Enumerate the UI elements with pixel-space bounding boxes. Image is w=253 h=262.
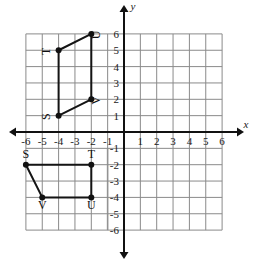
- y-tick-label: -2: [110, 159, 119, 171]
- y-axis-label: y: [130, 0, 136, 12]
- x-tick-label: 5: [203, 135, 209, 147]
- x-tick-label: -2: [87, 135, 96, 147]
- coordinate-plane-svg: -6-5-4-3-2-1123456654321-1-2-3-4-5-6 xy …: [0, 0, 253, 262]
- vertex-point: [23, 162, 29, 168]
- x-tick-label: -5: [38, 135, 48, 147]
- y-tick-label: 4: [114, 61, 120, 73]
- y-tick-label: -5: [110, 208, 120, 220]
- y-tick-label: 6: [114, 28, 120, 40]
- vertex-label: U: [87, 198, 96, 212]
- x-tick-label: 4: [187, 135, 193, 147]
- x-tick-label: 1: [138, 135, 144, 147]
- y-tick-label: -1: [110, 142, 119, 154]
- y-tick-label: 3: [114, 77, 120, 89]
- x-tick-label: 3: [170, 135, 176, 147]
- vertex-label: U: [89, 30, 103, 39]
- y-tick-label: -3: [110, 175, 120, 187]
- axes: [9, 5, 244, 259]
- vertex-label: T: [88, 147, 96, 161]
- y-tick-label: -4: [110, 191, 120, 203]
- y-tick-label: 1: [114, 110, 120, 122]
- vertex-label: S: [23, 147, 30, 161]
- x-tick-label: -6: [21, 135, 31, 147]
- y-tick-label: 2: [114, 93, 120, 105]
- coordinate-plane-figure: -6-5-4-3-2-1123456654321-1-2-3-4-5-6 xy …: [0, 0, 253, 262]
- vertex-point: [56, 47, 62, 53]
- x-axis-label: x: [243, 118, 249, 130]
- vertex-label: V: [89, 96, 103, 105]
- x-tick-label: 6: [219, 135, 225, 147]
- vertex-label: S: [39, 113, 53, 120]
- y-tick-label: -6: [110, 224, 120, 236]
- y-tick-label: 5: [114, 44, 120, 56]
- x-tick-label: -4: [54, 135, 64, 147]
- x-tick-label: -3: [70, 135, 80, 147]
- vertex-point: [56, 113, 62, 119]
- vertex-point: [88, 162, 94, 168]
- x-tick-label: 2: [154, 135, 160, 147]
- vertex-label: T: [39, 47, 53, 55]
- vertex-label: V: [38, 198, 47, 212]
